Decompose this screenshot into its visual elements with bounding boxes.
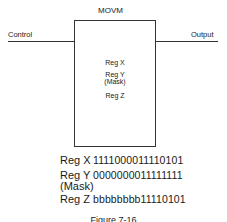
reg-x-value: 1111000011110101 bbox=[93, 155, 183, 166]
inner-reg-z: Reg Z bbox=[74, 92, 156, 99]
control-input-line bbox=[8, 41, 74, 42]
reg-x-label: Reg X bbox=[60, 155, 91, 166]
reg-y-value: 0000000011111111 bbox=[93, 170, 183, 181]
inner-reg-x: Reg X bbox=[74, 59, 156, 66]
output-line bbox=[155, 41, 218, 42]
reg-z-label: Reg Z bbox=[60, 194, 90, 205]
inner-reg-y: Reg Y bbox=[74, 71, 156, 78]
figure-caption: Figure 7-16 bbox=[0, 215, 227, 222]
reg-z-value: bbbbbbbb11110101 bbox=[93, 194, 186, 205]
reg-y-mask-label: (Mask) bbox=[60, 181, 94, 192]
inner-reg-y-mask: (Mask) bbox=[74, 78, 156, 85]
block-title: MOVM bbox=[0, 6, 221, 15]
output-label: Output bbox=[191, 30, 214, 39]
control-label: Control bbox=[8, 30, 32, 39]
